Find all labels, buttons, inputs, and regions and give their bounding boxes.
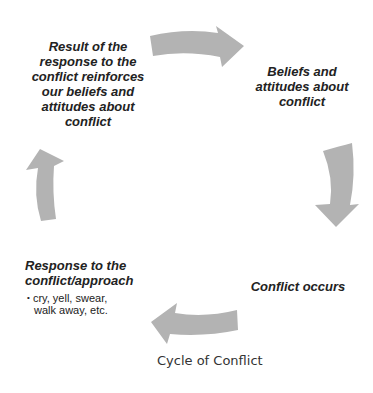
node-result-line: conflict <box>22 114 154 129</box>
arrow-down-icon <box>315 143 359 227</box>
bullet-icon: • <box>27 293 30 302</box>
node-response-bullets: • cry, yell, swear, walk away, etc. <box>27 292 157 316</box>
bullet-item: walk away, etc. <box>27 304 157 316</box>
node-result: Result of the response to the conflict r… <box>22 39 154 129</box>
node-result-line: response to the <box>22 54 154 69</box>
node-result-line: conflict reinforces <box>22 69 154 84</box>
node-response: Response to the conflict/approach <box>25 258 155 288</box>
node-result-line: Result of the <box>22 39 154 54</box>
node-beliefs-line: Beliefs and <box>243 64 361 79</box>
node-result-line: attitudes about <box>22 99 154 114</box>
bullet-item: • cry, yell, swear, <box>27 292 157 304</box>
node-response-line: conflict/approach <box>25 273 155 288</box>
node-beliefs: Beliefs and attitudes about conflict <box>243 64 361 109</box>
bullet-text: walk away, etc. <box>34 304 108 316</box>
node-result-line: our beliefs and <box>22 84 154 99</box>
arrow-left-icon <box>151 303 238 344</box>
bullet-text: cry, yell, swear, <box>33 292 107 304</box>
node-conflict-occurs: Conflict occurs <box>243 279 353 294</box>
node-beliefs-line: conflict <box>243 94 361 109</box>
arrow-up-icon <box>26 149 64 221</box>
node-conflict-line: Conflict occurs <box>243 279 353 294</box>
arrow-right-icon <box>150 26 244 67</box>
node-response-line: Response to the <box>25 258 155 273</box>
node-beliefs-line: attitudes about <box>243 79 361 94</box>
diagram-caption: Cycle of Conflict <box>157 353 263 368</box>
